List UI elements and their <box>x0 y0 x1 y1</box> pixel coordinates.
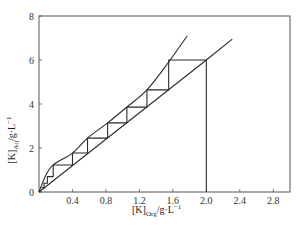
x-tick-label: 0.8 <box>100 195 113 206</box>
x-tick-label: 2.4 <box>234 195 247 206</box>
equilibrium-curve <box>39 36 187 192</box>
chart: 0.40.81.21.62.02.42.802468 [K]Org/g·L−1 … <box>0 0 301 232</box>
x-tick-label: 2.0 <box>200 195 213 206</box>
x-tick-label: 0.4 <box>66 195 79 206</box>
plot-frame <box>39 16 290 192</box>
y-tick-label: 0 <box>29 187 34 198</box>
y-tick-label: 4 <box>29 99 34 110</box>
x-axis-label: [K]Org/g·L−1 <box>132 203 182 218</box>
y-tick-label: 6 <box>29 55 34 66</box>
series-group <box>39 36 232 192</box>
y-axis-label: [K]Aq/g·L−1 <box>5 116 20 164</box>
x-tick-label: 2.8 <box>267 195 280 206</box>
operating-line <box>39 39 232 192</box>
y-tick-label: 8 <box>29 11 34 22</box>
y-tick-label: 2 <box>29 143 34 154</box>
axis-ticks: 0.40.81.21.62.02.42.802468 <box>29 11 280 207</box>
